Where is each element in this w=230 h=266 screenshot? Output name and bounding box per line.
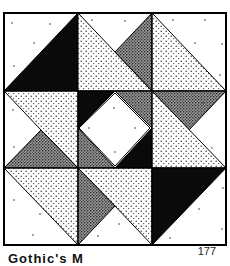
- patch-r1-c1-center: [78, 91, 152, 168]
- page-number: 177: [198, 245, 216, 257]
- quilt-block-diagram: [0, 0, 230, 250]
- figure-caption: Gothic's M: [8, 251, 84, 266]
